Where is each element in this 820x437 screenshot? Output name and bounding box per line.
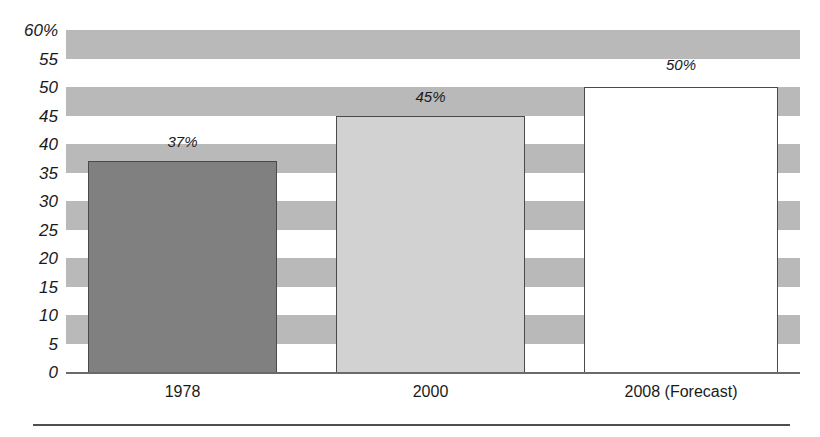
y-tick-55: 55 [0, 51, 58, 68]
y-tick-60: 60% [0, 22, 58, 39]
x-tick-2000: 2000 [336, 383, 525, 401]
bar-label-2000: 45% [336, 89, 525, 104]
y-tick-35: 35 [0, 165, 58, 182]
x-tick-2008-forecast: 2008 (Forecast) [584, 383, 778, 401]
bar-2008-forecast [584, 87, 778, 373]
y-axis-labels: 60% 55 50 45 40 35 30 25 20 15 10 5 0 [0, 0, 58, 437]
grid-band-55-60 [66, 30, 800, 59]
bottom-divider [33, 424, 790, 426]
y-tick-40: 40 [0, 136, 58, 153]
y-tick-30: 30 [0, 193, 58, 210]
bar-label-2008-forecast: 50% [584, 57, 778, 72]
bar-1978 [88, 161, 277, 373]
bar-label-1978: 37% [88, 134, 277, 149]
y-tick-0: 0 [0, 364, 58, 381]
bar-2000 [336, 116, 525, 373]
y-tick-5: 5 [0, 336, 58, 353]
y-tick-45: 45 [0, 108, 58, 125]
y-tick-10: 10 [0, 307, 58, 324]
x-tick-1978: 1978 [88, 383, 277, 401]
x-axis-line [66, 372, 800, 374]
y-tick-20: 20 [0, 250, 58, 267]
y-tick-15: 15 [0, 279, 58, 296]
bar-chart: 37% 45% 50% 60% 55 50 45 40 35 30 25 20 … [0, 0, 820, 437]
y-tick-50: 50 [0, 79, 58, 96]
y-tick-25: 25 [0, 222, 58, 239]
